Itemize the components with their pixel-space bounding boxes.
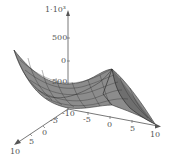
x-tick-label: 10: [150, 131, 160, 139]
z-tick-label: 1·10³: [45, 6, 66, 14]
x-tick-label: 0: [107, 121, 112, 129]
z-tick-label: 500: [52, 34, 67, 42]
y-tick-label: 10: [10, 148, 20, 156]
y-axis: [14, 109, 68, 145]
x-tick-label: -5: [83, 116, 91, 124]
z-tick-label: 500: [52, 78, 67, 86]
surface-mesh: [14, 50, 155, 124]
surface-plot: [0, 0, 172, 164]
y-tick-label: -5: [50, 117, 58, 125]
y-tick-label: 5: [29, 138, 34, 146]
y-tick-label: 0: [42, 129, 47, 137]
x-tick-label: 5: [130, 125, 135, 133]
z-tick-label: 0: [61, 57, 66, 65]
